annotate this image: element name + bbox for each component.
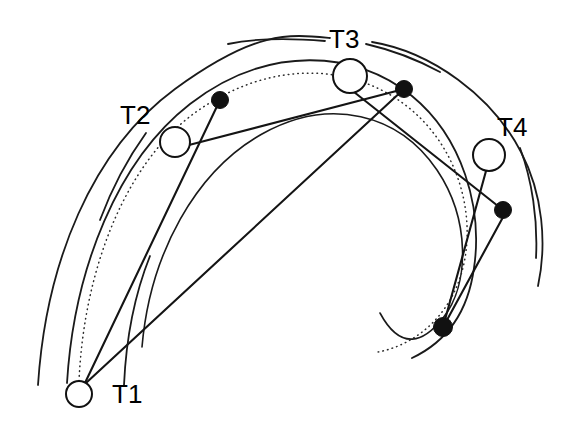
leader-line-t3-right	[366, 44, 440, 72]
orbital-spiral-diagram: T1 T2 T3 T4	[0, 0, 578, 434]
open-node-t4	[473, 139, 505, 171]
mid-arc	[142, 114, 463, 347]
open-node-t1	[66, 381, 92, 407]
label-t4: T4	[497, 112, 527, 142]
label-t3: T3	[329, 24, 359, 54]
leader-line-t4	[520, 148, 536, 258]
filled-node-t3	[396, 81, 413, 98]
chord-t4-dot-to-lower-dot	[447, 219, 502, 320]
filled-node-t4	[495, 202, 512, 219]
arc-group	[38, 36, 542, 385]
chord-group	[84, 89, 503, 385]
leader-line-t3-left	[228, 39, 325, 44]
label-t2: T2	[120, 100, 150, 130]
open-node-t2	[160, 127, 190, 157]
outer-arc-left	[38, 36, 330, 385]
outer-arc-right	[372, 42, 542, 286]
chord-t1-to-t3-dot	[86, 89, 404, 383]
open-node-t3	[333, 59, 367, 93]
label-group: T1 T2 T3 T4	[112, 24, 527, 409]
filled-node-lower	[434, 318, 453, 337]
diagram-canvas: T1 T2 T3 T4	[0, 0, 578, 434]
leader-line-t2	[100, 133, 146, 220]
filled-node-t2	[212, 92, 229, 109]
label-t1: T1	[112, 379, 142, 409]
